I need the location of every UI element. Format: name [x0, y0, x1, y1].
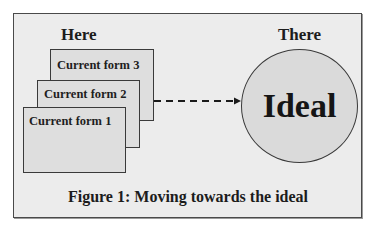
- current-form-1-box: Current form 1: [23, 107, 126, 173]
- ideal-label: Ideal: [263, 87, 337, 125]
- current-form-1-label: Current form 1: [29, 114, 111, 129]
- here-heading: Here: [61, 25, 97, 45]
- there-heading: There: [278, 25, 321, 45]
- current-form-2-label: Current form 2: [44, 87, 126, 102]
- figure-caption: Figure 1: Moving towards the ideal: [0, 188, 376, 206]
- ideal-circle: Ideal: [241, 49, 358, 163]
- arrow-right-icon: [154, 97, 242, 105]
- current-form-3-label: Current form 3: [57, 58, 139, 73]
